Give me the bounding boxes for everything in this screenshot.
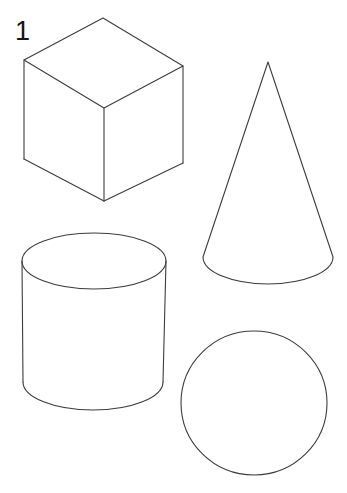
- figure-cone: [203, 62, 333, 284]
- cylinder-left-side: [22, 261, 23, 382]
- cylinder-bottom-arc: [23, 382, 163, 410]
- figure-cylinder: [22, 233, 166, 410]
- worksheet-canvas: 1: [0, 0, 347, 493]
- geometric-figures-svg: [0, 0, 347, 493]
- cylinder-right-side: [163, 261, 166, 382]
- cube-top-face: [24, 18, 183, 108]
- figure-circle: [181, 331, 327, 475]
- figure-cube: [24, 18, 183, 201]
- cylinder-top-ellipse: [22, 233, 166, 289]
- cube-bottom-left-edge: [24, 159, 104, 201]
- circle-outline: [181, 331, 327, 475]
- cone-outline: [203, 62, 333, 284]
- cube-bottom-right-edge: [104, 163, 183, 201]
